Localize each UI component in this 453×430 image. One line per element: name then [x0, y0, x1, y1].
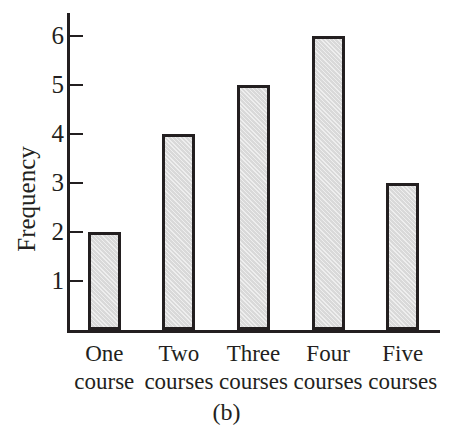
x-axis-label-line2: courses [365, 368, 440, 396]
x-axis-label-line1: Three [216, 340, 291, 368]
x-axis-label-4: Fourcourses [291, 340, 366, 396]
figure-caption: (b) [0, 398, 453, 426]
y-tick-label-5: 5 [40, 72, 64, 97]
category-label-group: OnecourseTwocoursesThreecoursesFourcours… [0, 340, 453, 398]
bar-three-courses [237, 85, 270, 330]
x-axis-line [67, 330, 440, 333]
y-tick-5 [70, 84, 83, 86]
x-axis-label-line1: Five [365, 340, 440, 368]
x-axis-label-line1: Four [291, 340, 366, 368]
x-axis-label-line2: courses [291, 368, 366, 396]
x-axis-label-line1: One [67, 340, 142, 368]
x-axis-label-2: Twocourses [142, 340, 217, 396]
bar-chart-figure: Frequency 123456 OnecourseTwocoursesThre… [0, 0, 453, 430]
y-axis-line [67, 13, 70, 333]
bar-five-courses [386, 183, 419, 330]
x-axis-label-line1: Two [142, 340, 217, 368]
y-tick-6 [70, 35, 83, 37]
y-tick-label-6: 6 [40, 23, 64, 48]
x-axis-label-line2: courses [216, 368, 291, 396]
bar-four-courses [312, 36, 345, 330]
bar-one-course [88, 232, 121, 330]
y-tick-4 [70, 133, 83, 135]
x-axis-label-5: Fivecourses [365, 340, 440, 396]
x-axis-label-line2: course [67, 368, 142, 396]
y-tick-1 [70, 280, 83, 282]
y-tick-label-1: 1 [40, 268, 64, 293]
x-axis-label-1: Onecourse [67, 340, 142, 396]
y-tick-label-4: 4 [40, 121, 64, 146]
plot-area: Frequency 123456 [0, 0, 453, 340]
x-axis-label-3: Threecourses [216, 340, 291, 396]
y-tick-label-3: 3 [40, 170, 64, 195]
y-tick-2 [70, 231, 83, 233]
y-tick-3 [70, 182, 83, 184]
x-axis-label-line2: courses [142, 368, 217, 396]
y-tick-label-2: 2 [40, 219, 64, 244]
bar-two-courses [162, 134, 195, 330]
y-axis-title: Frequency [14, 119, 40, 279]
